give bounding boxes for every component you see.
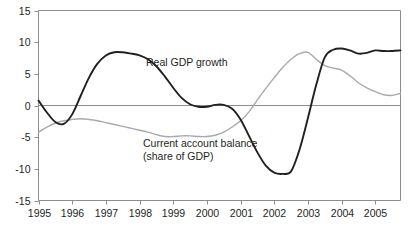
y-tick-label: -15 bbox=[15, 195, 30, 207]
chart-figure: 151050-5-10-15 1995199619971998199920002… bbox=[0, 0, 412, 229]
x-tick-label: 2000 bbox=[196, 207, 220, 219]
x-tick-label: 2002 bbox=[263, 207, 287, 219]
y-tick-label: 15 bbox=[19, 5, 31, 17]
x-tick-label: 1995 bbox=[28, 207, 52, 219]
x-tick-label: 2001 bbox=[230, 207, 254, 219]
x-axis: 1995199619971998199920002001200220032004… bbox=[28, 201, 388, 219]
series-label-current-account-balance: Current account balance bbox=[143, 137, 258, 149]
x-tick-label: 1998 bbox=[129, 207, 153, 219]
y-tick-label: 5 bbox=[25, 68, 31, 80]
x-tick-label: 2004 bbox=[331, 207, 355, 219]
y-tick-label: -10 bbox=[15, 163, 30, 175]
y-tick-label: 0 bbox=[25, 100, 31, 112]
x-tick-label: 1996 bbox=[61, 207, 85, 219]
series-label-real-gdp-growth: Real GDP growth bbox=[146, 56, 228, 68]
x-tick-label: 2005 bbox=[364, 207, 388, 219]
y-axis: 151050-5-10-15 bbox=[15, 5, 38, 207]
x-tick-label: 1997 bbox=[95, 207, 119, 219]
line-chart: 151050-5-10-15 1995199619971998199920002… bbox=[0, 0, 412, 229]
x-tick-label: 1999 bbox=[162, 207, 186, 219]
y-tick-label: 10 bbox=[19, 36, 31, 48]
x-tick-label: 2003 bbox=[297, 207, 321, 219]
series-label-current-account-balance-sub: (share of GDP) bbox=[143, 150, 214, 162]
y-tick-label: -5 bbox=[21, 131, 30, 143]
